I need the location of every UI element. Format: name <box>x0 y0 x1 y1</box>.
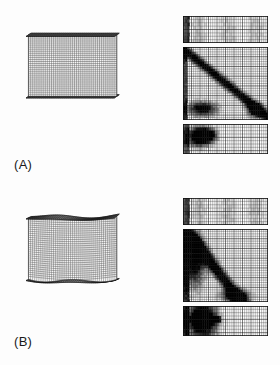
plate-girder-mesh-a <box>4 2 154 174</box>
plate-girder-mesh-b <box>4 184 154 356</box>
panel-a-bottom-flange <box>183 124 268 154</box>
beam-view-a <box>4 2 154 174</box>
panel-a-top-flange <box>183 16 268 43</box>
panel-b-web <box>183 229 268 302</box>
panel-a-web <box>183 47 268 120</box>
subfigure-label-b: (B) <box>14 334 32 349</box>
contour-panel-stack-b <box>183 190 275 358</box>
panel-b-bottom-flange <box>183 306 268 336</box>
subfigure-a: (A) <box>0 0 280 182</box>
panel-b-top-flange <box>183 198 268 225</box>
beam-view-b <box>4 184 154 356</box>
contour-panel-stack-a <box>183 8 275 176</box>
figure-root: (A) (B) <box>0 0 280 365</box>
subfigure-b: (B) <box>0 182 280 364</box>
subfigure-label-a: (A) <box>14 157 32 172</box>
